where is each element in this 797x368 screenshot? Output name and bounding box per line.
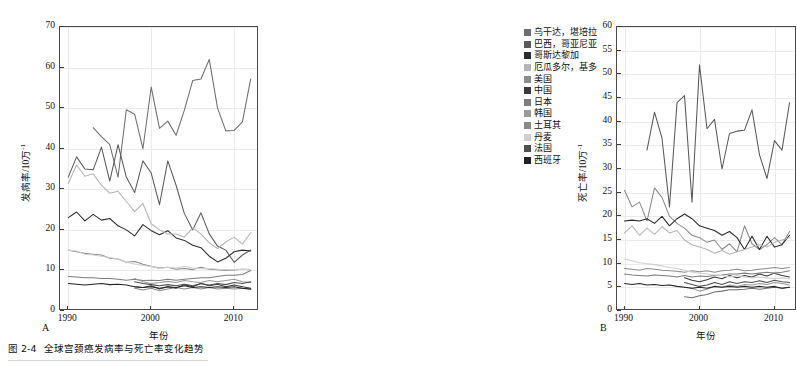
x-axis-tick-label: 1990 (47, 314, 87, 324)
series-line (647, 65, 790, 207)
legend-item[interactable]: 乌干达，堪培拉 (524, 27, 640, 39)
legend-swatch-icon (524, 87, 531, 94)
legend-swatch-icon (524, 145, 531, 152)
y-axis-tick (617, 192, 621, 193)
x-axis-tick-label: 2010 (213, 314, 253, 324)
y-axis-tick (60, 310, 64, 311)
y-axis-tick-label: 20 (33, 224, 55, 234)
x-axis-tick (774, 306, 775, 310)
x-axis-tick (67, 306, 68, 310)
series-line (685, 287, 790, 297)
y-axis-tick (617, 215, 621, 216)
legend-item-label: 土耳其 (534, 121, 561, 130)
y-axis-tick (60, 107, 64, 108)
legend-swatch-icon (524, 134, 531, 141)
legend-item-label: 美国 (534, 75, 552, 84)
y-axis-title-incidence: 发病率/10万-1 (18, 144, 32, 202)
x-axis-tick (150, 306, 151, 310)
y-axis-tick (60, 188, 64, 189)
y-axis-tick (60, 229, 64, 230)
x-axis-tick (233, 306, 234, 310)
y-axis-tick-label: 30 (33, 183, 55, 193)
y-axis-tick-label: 70 (33, 21, 55, 31)
y-axis-tick (60, 148, 64, 149)
x-axis-tick-label: 2000 (679, 314, 719, 324)
legend-item-label: 乌干达，堪培拉 (534, 28, 597, 37)
x-axis-tick (624, 306, 625, 310)
y-axis-tick-label: 5 (590, 281, 612, 291)
series-layer-mortality (617, 27, 797, 311)
series-line (625, 214, 790, 250)
x-axis-tick-label: 2000 (130, 314, 170, 324)
plot-area-incidence (59, 26, 258, 310)
legend-swatch-icon (524, 29, 531, 36)
legend-item-label: 巴西，哥亚尼亚 (534, 40, 597, 49)
y-axis-tick-label: 60 (33, 62, 55, 72)
legend-swatch-icon (524, 157, 531, 164)
panel-mortality: 051015202530354045505560199020002010 死亡率… (278, 0, 538, 340)
legend-swatch-icon (524, 64, 531, 71)
caption-number: 图 2-4 (8, 343, 37, 354)
legend-item-label: 日本 (534, 98, 552, 107)
series-line (68, 270, 250, 280)
legend-swatch-icon (524, 122, 531, 129)
y-axis-tick-label: 40 (33, 143, 55, 153)
legend-swatch-icon (524, 52, 531, 59)
legend-item[interactable]: 法国 (524, 143, 640, 155)
x-axis-tick-label: 2010 (754, 314, 794, 324)
y-axis-tick-label: 10 (33, 264, 55, 274)
legend-item-label: 韩国 (534, 109, 552, 118)
x-axis-title-mortality: 年份 (616, 328, 796, 342)
x-axis-tick (699, 306, 700, 310)
y-axis-tick (617, 239, 621, 240)
series-line (68, 165, 250, 249)
series-line (68, 250, 250, 270)
legend-item[interactable]: 日本 (524, 97, 640, 109)
legend-swatch-icon (524, 99, 531, 106)
caption-text: 全球宫颈癌发病率与死亡率变化趋势 (44, 343, 204, 354)
series-line (68, 145, 250, 263)
legend-item-label: 丹麦 (534, 133, 552, 142)
y-axis-tick (60, 26, 64, 27)
x-axis-tick-label: 1990 (604, 314, 644, 324)
y-axis-tick (617, 263, 621, 264)
y-axis-tick-label: 20 (590, 210, 612, 220)
legend-item[interactable]: 巴西，哥亚尼亚 (524, 39, 640, 51)
legend-item[interactable]: 土耳其 (524, 120, 640, 132)
series-line (93, 59, 251, 177)
series-layer-incidence (60, 27, 259, 311)
legend-item[interactable]: 厄瓜多尔，基多 (524, 62, 640, 74)
y-axis-tick (617, 286, 621, 287)
legend-swatch-icon (524, 76, 531, 83)
legend-item[interactable]: 韩国 (524, 108, 640, 120)
legend: 乌干达，堪培拉巴西，哥亚尼亚哥斯达黎加厄瓜多尔，基多美国中国日本韩国土耳其丹麦法… (524, 27, 640, 166)
legend-item[interactable]: 西班牙 (524, 155, 640, 167)
plot-area-mortality (616, 26, 796, 310)
y-axis-tick (60, 269, 64, 270)
legend-swatch-icon (524, 41, 531, 48)
panel-label-a: A (42, 322, 49, 333)
x-axis-title-incidence: 年份 (59, 328, 258, 342)
y-axis-tick (617, 310, 621, 311)
y-axis-tick (60, 67, 64, 68)
legend-item[interactable]: 美国 (524, 73, 640, 85)
y-axis-title-text: 发病率/10万 (21, 150, 31, 202)
y-axis-tick-label: 15 (590, 234, 612, 244)
y-axis-tick-label: 50 (33, 102, 55, 112)
figure-caption: 图 2-4全球宫颈癌发病率与死亡率变化趋势 (8, 341, 508, 355)
legend-swatch-icon (524, 110, 531, 117)
legend-item-label: 西班牙 (534, 156, 561, 165)
panel-incidence: 010203040506070199020002010 发病率/10万-1 年份… (0, 0, 300, 340)
legend-item[interactable]: 中国 (524, 85, 640, 97)
y-axis-tick (617, 168, 621, 169)
legend-item-label: 中国 (534, 86, 552, 95)
legend-item[interactable]: 丹麦 (524, 131, 640, 143)
legend-item-label: 厄瓜多尔，基多 (534, 63, 597, 72)
legend-item[interactable]: 哥斯达黎加 (524, 50, 640, 62)
panel-label-b: B (600, 322, 607, 333)
series-line (625, 267, 790, 272)
y-axis-title-exponent: -1 (19, 144, 27, 150)
y-axis-tick-label: 25 (590, 187, 612, 197)
y-axis-tick-label: 10 (590, 258, 612, 268)
